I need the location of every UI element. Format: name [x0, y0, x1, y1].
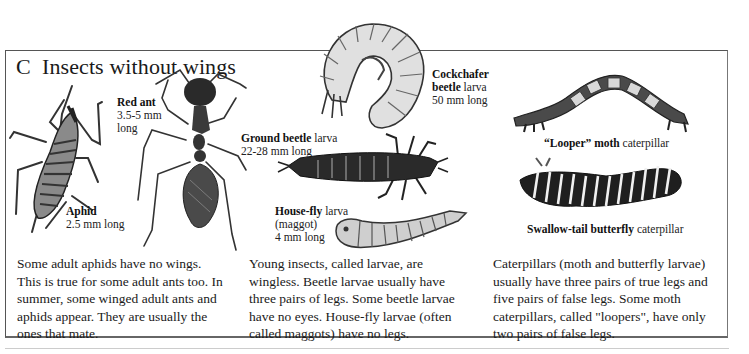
paragraph-line: wingless. Beetle larvae usually have [249, 273, 455, 291]
paragraph-line: have no eyes. House-fly larvae (often [249, 308, 455, 326]
aphid-label: Aphid 2.5 mm long [66, 205, 124, 231]
cockchafer-label: Cockchafer beetle larva 50 mm long [432, 68, 489, 107]
paragraph-line: caterpillars, called "loopers", have onl… [493, 308, 708, 326]
paragraph-line: Some adult aphids have no wings. [17, 255, 223, 273]
cockchafer-stage: larva [464, 81, 487, 93]
paragraph-line: This is true for some adult ants too. In [17, 273, 223, 291]
house-fly-name: House-fly [275, 205, 322, 217]
paragraph-line: five pairs of false legs. Some moth [493, 290, 708, 308]
section-letter: C [16, 54, 31, 79]
swallowtail-stage: caterpillar [637, 223, 684, 235]
cockchafer-name-line1: Cockchafer [432, 68, 489, 80]
paragraph-line: Young insects, called larvae, are [249, 255, 455, 273]
looper-label: “Looper” moth caterpillar [544, 137, 669, 150]
red-ant-name: Red ant [117, 96, 156, 108]
divider [5, 348, 729, 349]
aphid-name: Aphid [66, 205, 97, 217]
paragraph-line: two pairs of false legs. [493, 325, 708, 343]
cockchafer-larva-illustration [312, 20, 432, 130]
house-fly-stage: larva [325, 205, 348, 217]
swallowtail-caterpillar-illustration [516, 158, 686, 213]
paragraph-line: ones that mate. [17, 325, 223, 343]
cockchafer-size: 50 mm long [432, 94, 488, 106]
paragraph-line: summer, some winged adult ants and [17, 290, 223, 308]
house-fly-label: House-fly larva (maggot) 4 mm long [275, 205, 348, 244]
paragraph-line: aphids appear. They are usually the [17, 308, 223, 326]
ground-beetle-stage: larva [314, 132, 337, 144]
house-fly-size: 4 mm long [275, 231, 325, 243]
paragraph-line: usually have three pairs of true legs an… [493, 273, 708, 291]
paragraph-line: called maggots) have no legs. [249, 325, 455, 343]
swallowtail-label: Swallow-tail butterfly caterpillar [527, 223, 684, 236]
looper-stage: caterpillar [623, 137, 670, 149]
red-ant-label: Red ant 3.5-5 mm long [117, 96, 162, 135]
red-ant-size-suffix: long [117, 122, 137, 134]
cockchafer-name-line2: beetle [432, 81, 461, 93]
house-fly-alt: (maggot) [275, 218, 317, 230]
paragraph-line: three pairs of legs. Some beetle larvae [249, 290, 455, 308]
ground-beetle-name: Ground beetle [241, 132, 311, 144]
paragraph-larvae: Young insects, called larvae, are wingle… [249, 255, 455, 343]
swallowtail-name: Swallow-tail butterfly [527, 223, 634, 235]
paragraph-line: Caterpillars (moth and butterfly larvae) [493, 255, 708, 273]
red-ant-size: 3.5-5 mm [117, 109, 162, 121]
house-fly-larva-illustration [332, 205, 472, 250]
aphid-size: 2.5 mm long [66, 218, 124, 230]
paragraph-aphids-ants: Some adult aphids have no wings. This is… [17, 255, 223, 343]
paragraph-caterpillars: Caterpillars (moth and butterfly larvae)… [493, 255, 708, 343]
looper-caterpillar-illustration [512, 68, 692, 133]
ground-beetle-size: 22-28 mm long [241, 145, 312, 157]
ground-beetle-label: Ground beetle larva 22-28 mm long [241, 132, 337, 158]
looper-name: “Looper” moth [544, 137, 620, 149]
